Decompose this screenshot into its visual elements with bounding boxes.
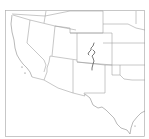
ok-tx-red-river [120, 65, 145, 80]
california-coast [11, 15, 32, 77]
state-outline-map [0, 0, 149, 139]
ca-mexico-border [32, 77, 44, 80]
colorado-river-feature [88, 43, 94, 55]
nv-ut-border [52, 26, 55, 56]
ut-az-border [50, 56, 77, 60]
nm-border [73, 62, 105, 96]
map-container [0, 0, 149, 139]
ca-nv-border [27, 20, 46, 72]
coastal-marker [21, 66, 22, 67]
colorado-border [77, 33, 112, 65]
az-mexico-border [44, 80, 73, 93]
texas-border [105, 65, 120, 75]
map-frame [6, 11, 145, 137]
colorado-river-feature-2 [92, 50, 95, 70]
texas-rio-grande [85, 94, 130, 134]
sd-ne-border [103, 24, 145, 30]
texas-gulf-coast [130, 111, 145, 134]
gulf-marker [135, 126, 136, 127]
id-wy-border [44, 11, 46, 23]
coastal-marker [24, 72, 25, 73]
northern-border [12, 11, 103, 16]
